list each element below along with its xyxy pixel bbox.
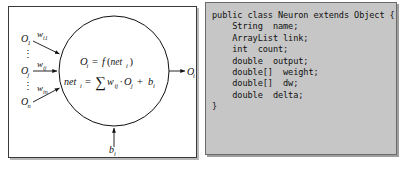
formula2-equals: = [85, 76, 91, 87]
input-label-2-sub: j [27, 71, 30, 78]
formula1-arg-base: net [111, 57, 123, 67]
java-code-panel: public class Neuron extends Object { Str… [205, 2, 397, 155]
input-ellipsis-bottom: ⋮ [23, 80, 33, 91]
formula2-dot-operator: · [120, 76, 124, 87]
bias-label-sub: i [114, 150, 116, 157]
input-arrow-1 [33, 41, 60, 54]
weight-label-3-sub: in [43, 89, 48, 95]
output-label-sub: i [193, 72, 195, 79]
formula2-plus: + [137, 76, 143, 87]
weight-label-2-sub: ij [43, 65, 47, 71]
weight-label-1-sub: i1 [43, 35, 48, 41]
input-label-1-sub: 1 [28, 39, 31, 46]
neuron-body-circle [59, 16, 169, 126]
neuron-diagram-svg: O 1 ⋮ O j ⋮ O n w i1 w ij w in [9, 7, 196, 157]
input-ellipsis-top: ⋮ [23, 48, 33, 59]
formula2-weight-base: w [107, 76, 114, 87]
formula2-weight-sub: ij [115, 82, 119, 89]
formula1-arg-sub: i [126, 62, 128, 69]
neuron-diagram-panel: O 1 ⋮ O j ⋮ O n w i1 w ij w in [8, 6, 197, 158]
input-label-3-sub: n [28, 102, 31, 109]
formula2-lhs-sub: i [80, 82, 82, 89]
formula1-lhs-sub: i [87, 62, 89, 69]
formula2-sigma: ∑ [95, 74, 106, 91]
formula1-equals: = [92, 56, 98, 67]
figure-container: O 1 ⋮ O j ⋮ O n w i1 w ij w in [0, 0, 410, 173]
formula2-bias-sub: i [153, 82, 155, 89]
formula2-lhs-base: net [64, 76, 76, 87]
formula-output-activation: O i = f ( net i ) [80, 56, 134, 69]
java-source-code: public class Neuron extends Object { Str… [206, 3, 396, 113]
formula-net-input: net i = ∑ w ij · O j + b i [64, 74, 155, 91]
formula1-close-paren: ) [130, 56, 134, 68]
formula2-output-sub: j [130, 82, 133, 89]
